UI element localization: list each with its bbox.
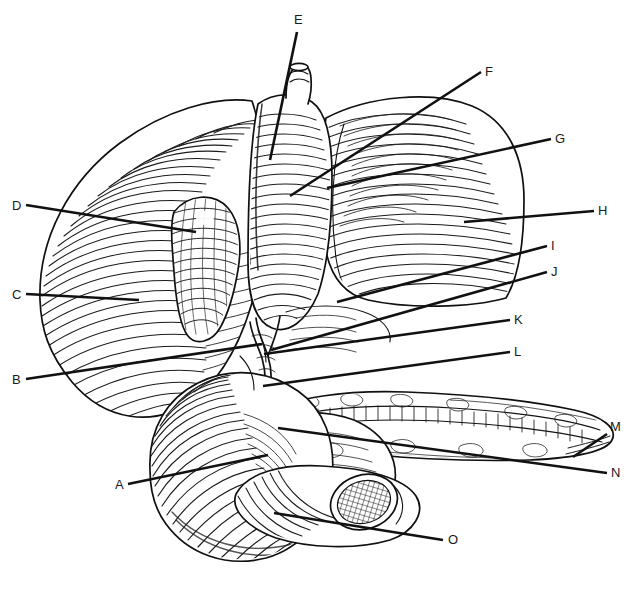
label-e[interactable]: E bbox=[294, 12, 303, 27]
label-g[interactable]: G bbox=[555, 131, 565, 146]
label-d[interactable]: D bbox=[12, 198, 22, 213]
label-c[interactable]: C bbox=[12, 287, 22, 302]
anatomy-figure: ABCDEFGHIJKLMNO bbox=[0, 0, 635, 590]
label-f[interactable]: F bbox=[485, 64, 493, 79]
label-n[interactable]: N bbox=[611, 465, 621, 480]
anatomy-illustration: ABCDEFGHIJKLMNO bbox=[0, 0, 635, 590]
label-i[interactable]: I bbox=[551, 238, 555, 253]
right-lobe-of-liver bbox=[321, 97, 524, 306]
label-m[interactable]: M bbox=[610, 419, 621, 434]
label-o[interactable]: O bbox=[448, 532, 458, 547]
label-k[interactable]: K bbox=[514, 312, 523, 327]
label-a[interactable]: A bbox=[115, 477, 124, 492]
label-h[interactable]: H bbox=[598, 203, 608, 218]
label-j[interactable]: J bbox=[551, 264, 558, 279]
label-l[interactable]: L bbox=[514, 344, 521, 359]
label-b[interactable]: B bbox=[12, 372, 21, 387]
